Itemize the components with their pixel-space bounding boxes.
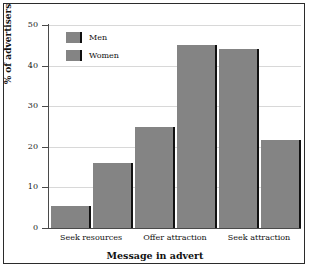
bar-men-seek-resources — [51, 206, 91, 228]
legend-item-men: Men — [66, 30, 119, 45]
bar-women-offer-attraction — [177, 45, 217, 228]
x-axis-category-label: Offer attraction — [133, 233, 217, 242]
bar-women-seek-attraction — [261, 140, 301, 228]
legend-label: Men — [89, 34, 107, 42]
bar-men-offer-attraction — [135, 127, 175, 229]
y-axis-tick-label: 10 — [4, 183, 38, 191]
legend: MenWomen — [66, 30, 119, 66]
x-axis-title: Message in advert — [4, 250, 306, 261]
y-axis-tick — [42, 147, 48, 148]
x-axis-category-label: Seek attraction — [217, 233, 301, 242]
y-axis-tick-label: 0 — [4, 224, 38, 232]
y-axis-tick — [42, 66, 48, 67]
y-axis-tick — [42, 228, 48, 229]
y-axis-tick — [42, 106, 48, 107]
chart-frame: 01020304050 MenWomen Seek resourcesOffer… — [3, 3, 305, 264]
y-axis-tick — [42, 25, 48, 26]
legend-item-women: Women — [66, 48, 119, 63]
y-axis-title: % of advertisers — [3, 0, 13, 89]
legend-swatch — [66, 50, 82, 61]
x-axis-category-label: Seek resources — [49, 233, 133, 242]
x-axis-line — [42, 228, 301, 229]
bar-men-seek-attraction — [219, 49, 259, 228]
y-axis-tick-label: 30 — [4, 102, 38, 110]
legend-swatch — [66, 32, 82, 43]
legend-label: Women — [89, 52, 119, 60]
y-axis-tick — [42, 187, 48, 188]
y-axis-tick-label: 20 — [4, 143, 38, 151]
bar-women-seek-resources — [93, 163, 133, 228]
